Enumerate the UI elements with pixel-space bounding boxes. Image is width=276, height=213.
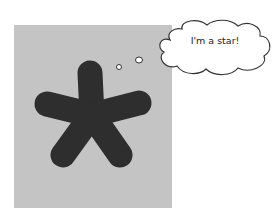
thought-cloud [160, 20, 270, 74]
star-illustration [0, 0, 276, 213]
thought-dots [117, 57, 143, 70]
star-shape [47, 73, 139, 155]
thought-text: I'm a star! [175, 35, 255, 46]
